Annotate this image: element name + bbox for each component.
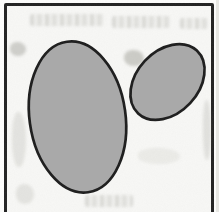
figure-canvas [0,0,219,212]
scan-edge-shadow [216,0,219,212]
scan-grain-overlay [0,0,219,212]
scanned-page [0,0,219,212]
